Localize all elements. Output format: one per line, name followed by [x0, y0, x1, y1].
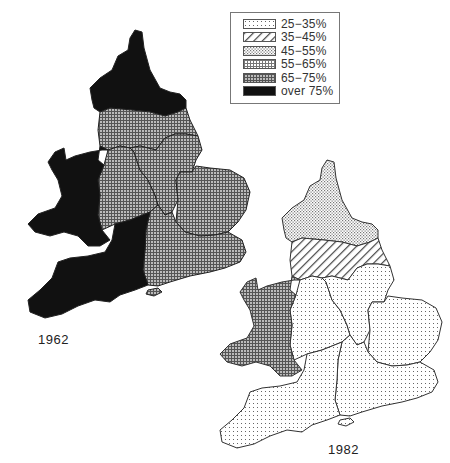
legend-row-65-75: 65−75% [243, 71, 339, 85]
year-label-1962: 1962 [38, 332, 69, 347]
map-1982 [220, 160, 442, 448]
legend-label: over 75% [281, 84, 333, 98]
region-north-1982 [282, 160, 378, 246]
swatch-65-75 [243, 73, 276, 83]
isle-of-wight-1982 [338, 418, 354, 426]
region-east-anglia-1982 [368, 296, 442, 366]
legend-row-25-35: 25−35% [243, 17, 339, 31]
legend-row-35-45: 35−45% [243, 31, 339, 45]
swatch-45-55 [243, 46, 276, 56]
legend-label: 55−65% [281, 57, 327, 71]
legend-label: 65−75% [281, 71, 327, 85]
isle-of-wight-1962 [146, 288, 162, 296]
swatch-25-35 [243, 19, 276, 29]
legend-row-over-75: over 75% [243, 85, 339, 99]
legend-row-55-65: 55−65% [243, 58, 339, 72]
legend-label: 35−45% [281, 30, 327, 44]
swatch-55-65 [243, 59, 276, 69]
legend-label: 45−55% [281, 44, 327, 58]
legend: 25−35% 35−45% 45−55% 55−65% 65−75% over … [230, 12, 340, 104]
maps-canvas [0, 0, 450, 463]
year-label-1982: 1982 [328, 442, 359, 457]
region-east-anglia-1962 [176, 166, 250, 236]
swatch-35-45 [243, 32, 276, 42]
legend-row-45-55: 45−55% [243, 44, 339, 58]
region-wales-1962 [28, 146, 110, 246]
region-wales-1982 [220, 276, 302, 376]
legend-label: 25−35% [281, 17, 327, 31]
region-north-1962 [90, 30, 186, 116]
swatch-over-75 [243, 86, 276, 96]
map-1962 [28, 30, 250, 318]
